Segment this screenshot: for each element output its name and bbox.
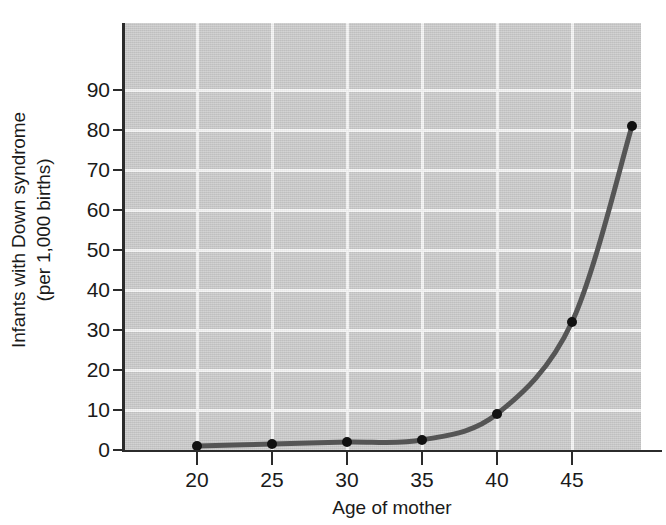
x-axis-tick-label: 25 [242, 468, 302, 492]
x-axis-title: Age of mother [122, 497, 662, 519]
plot-area [125, 23, 641, 450]
x-axis-tick-mark [421, 452, 423, 465]
x-axis-tick-label: 45 [542, 468, 602, 492]
chart-figure: Infants with Down syndrome (per 1,000 bi… [0, 0, 666, 525]
data-point-marker [417, 435, 427, 445]
data-point-marker [267, 439, 277, 449]
y-axis-tick-label: 60 [58, 199, 110, 220]
y-axis-title: Infants with Down syndrome (per 1,000 bi… [0, 0, 62, 460]
y-axis-title-line-2: (per 1,000 births) [31, 112, 56, 348]
y-axis-tick-label: 40 [58, 279, 110, 300]
x-axis-tick-label: 35 [392, 468, 452, 492]
y-axis-tick-label: 10 [58, 399, 110, 420]
x-axis-tick-mark [571, 452, 573, 465]
data-series-curve [125, 23, 641, 450]
series-line [197, 126, 632, 446]
y-axis-title-line-1: Infants with Down syndrome [8, 112, 29, 348]
x-axis-tick-mark [496, 452, 498, 465]
y-axis-title-text: Infants with Down syndrome (per 1,000 bi… [6, 112, 56, 348]
x-axis-tick-label: 20 [167, 468, 227, 492]
data-point-marker [192, 441, 202, 450]
x-axis-tick-marks [0, 452, 666, 466]
y-axis-tick-label: 30 [58, 319, 110, 340]
data-point-marker [342, 437, 352, 447]
y-axis-tick-label: 20 [58, 359, 110, 380]
x-axis-tick-labels: 202530354045 [0, 468, 666, 498]
x-axis-tick-label: 40 [467, 468, 527, 492]
y-axis-tick-labels: 0102030405060708090 [58, 0, 110, 525]
x-axis-tick-label: 30 [317, 468, 377, 492]
data-point-marker [627, 121, 637, 131]
data-point-marker [567, 317, 577, 327]
y-axis-tick-label: 70 [58, 159, 110, 180]
x-axis-tick-mark [271, 452, 273, 465]
x-axis-tick-mark [196, 452, 198, 465]
y-axis-tick-label: 90 [58, 79, 110, 100]
y-axis-tick-label: 80 [58, 119, 110, 140]
data-point-marker [492, 409, 502, 419]
y-axis-tick-label: 50 [58, 239, 110, 260]
x-axis-tick-mark [346, 452, 348, 465]
